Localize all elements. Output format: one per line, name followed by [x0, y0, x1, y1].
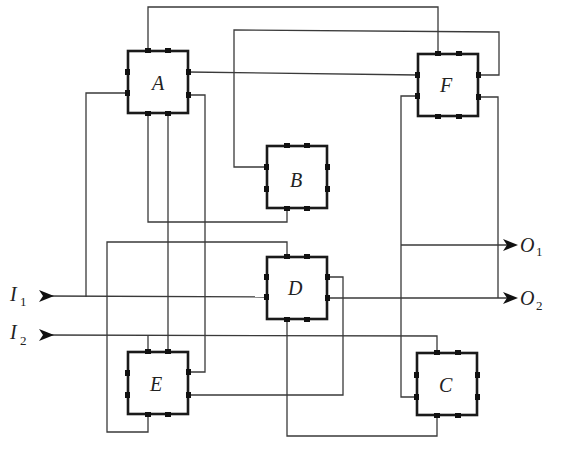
wire-i2-c — [45, 335, 437, 353]
output-arrows — [503, 239, 518, 304]
svg-text:2: 2 — [536, 298, 543, 313]
wire-f-o2 — [478, 97, 498, 298]
i2-arrow-icon — [39, 329, 54, 341]
svg-text:2: 2 — [20, 333, 27, 348]
block-b: B — [264, 143, 330, 211]
block-a: A — [125, 48, 191, 116]
svg-text:I: I — [9, 283, 18, 305]
wire-i1-d — [45, 296, 267, 297]
block-a-label: A — [150, 72, 165, 94]
i1-arrow-icon — [39, 290, 54, 302]
block-f-label: F — [439, 74, 453, 96]
block-e-label: E — [149, 373, 162, 395]
svg-text:I: I — [9, 321, 18, 343]
block-b-label: B — [290, 169, 302, 191]
input-arrows — [39, 290, 54, 341]
svg-text:1: 1 — [536, 244, 543, 259]
wire-f-c — [401, 96, 418, 397]
svg-text:1: 1 — [20, 294, 27, 309]
block-c: C — [414, 350, 480, 418]
block-d: D — [264, 254, 330, 322]
svg-text:O: O — [520, 234, 534, 256]
svg-text:O: O — [520, 287, 534, 309]
block-c-label: C — [439, 374, 453, 396]
output-o2-label: O 2 — [520, 287, 543, 313]
input-i1-label: I 1 — [9, 283, 27, 309]
input-i2-label: I 2 — [9, 321, 27, 348]
block-e: E — [125, 349, 191, 417]
wire-a-f — [188, 72, 418, 75]
block-f: F — [415, 51, 481, 119]
block-d-label: D — [287, 277, 303, 299]
output-o1-label: O 1 — [520, 234, 543, 259]
block-diagram: A F B D E — [0, 0, 569, 450]
wire-a-e-right — [188, 95, 205, 372]
